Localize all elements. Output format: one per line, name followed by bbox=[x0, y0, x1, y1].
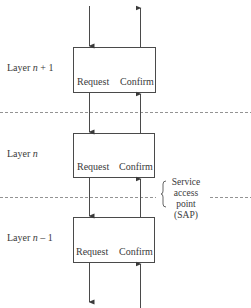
layer-n-request-label: Request bbox=[77, 161, 109, 172]
layer-n-minus-1-label: Layer n – 1 bbox=[7, 232, 53, 243]
sap-line-1: Service bbox=[166, 177, 206, 188]
sap-line-4: (SAP) bbox=[166, 210, 206, 221]
sap-label: Service access point (SAP) bbox=[166, 177, 206, 221]
layer-n-minus-1-request-label: Request bbox=[76, 246, 108, 257]
layer-n-plus-1-label: Layer n + 1 bbox=[7, 62, 53, 73]
layer-n-label: Layer n bbox=[7, 148, 38, 159]
sap-line-3: point bbox=[166, 199, 206, 210]
sap-line-2: access bbox=[166, 188, 206, 199]
layer-n-minus-1-confirm-label: Confirm bbox=[119, 246, 153, 257]
layer-n-plus-1-confirm-label: Confirm bbox=[120, 76, 154, 87]
layer-n-plus-1-request-label: Request bbox=[77, 76, 109, 87]
layer-n-confirm-label: Confirm bbox=[119, 161, 153, 172]
